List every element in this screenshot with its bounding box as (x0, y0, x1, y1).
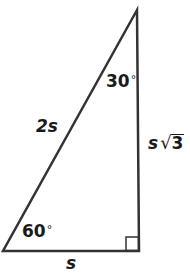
long-leg-variable: s (148, 133, 158, 153)
angle-30-label: 30° (106, 73, 136, 90)
right-angle-marker (126, 237, 139, 251)
hypotenuse-label: 2s (36, 118, 58, 135)
triangle-diagram: 30° 60° 2s s s√3 (0, 0, 190, 273)
short-leg-label: s (66, 255, 76, 272)
degree-symbol: ° (131, 73, 137, 86)
long-leg-label: s√3 (148, 134, 184, 152)
triangle-outline (3, 10, 139, 251)
radicand: 3 (171, 134, 185, 152)
angle-30-value: 30 (106, 71, 130, 91)
angle-60-value: 60 (22, 221, 46, 241)
angle-60-label: 60° (22, 223, 52, 240)
square-root-expression: √3 (160, 134, 184, 152)
degree-symbol: ° (47, 223, 53, 236)
